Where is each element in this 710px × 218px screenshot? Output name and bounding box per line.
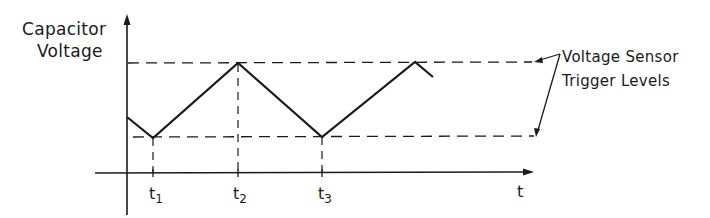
y-axis-arrow-icon [124,14,131,25]
lower-trigger-level-line [133,136,534,137]
capacitor-voltage-waveform [127,62,433,138]
y-axis-label-line2: Voltage [37,41,103,61]
annotation-arrow-upper-icon [534,57,543,63]
x-axis [95,172,526,173]
t3-subscript: 3 [324,192,332,206]
t3-label: t3 [318,185,332,208]
t1-label: t1 [149,185,163,208]
t2-subscript: 2 [239,192,247,206]
annotation-leader-upper [540,54,560,60]
y-axis-label-line1: Capacitor [22,19,106,39]
annotation-line1: Voltage Sensor [562,47,679,67]
annotation-leader-lower [538,54,560,130]
diagram-graphics [0,0,710,218]
annotation-line2: Trigger Levels [562,71,670,91]
t1-subscript: 1 [155,192,163,206]
annotation-arrow-lower-icon [534,128,540,137]
t2-label: t2 [233,185,247,208]
x-axis-arrow-icon [523,169,534,176]
upper-trigger-level-line [128,62,532,63]
x-axis-label: t [517,183,523,201]
